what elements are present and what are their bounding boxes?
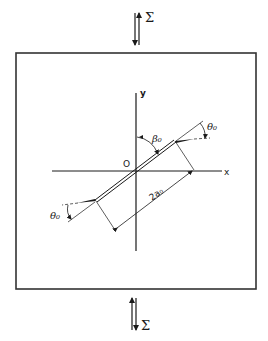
theta-arc-lower [67,205,71,219]
diagram-canvas: Σ x y O θ₀ θ₀ β₀ [0,0,268,341]
x-axis-label: x [224,167,230,177]
kink-direction-line-lower [62,203,78,205]
beta-label: β₀ [151,133,162,144]
crack-extension-line-upper [176,121,203,141]
lower-kink [77,199,96,203]
beta-angle: β₀ [137,133,162,154]
top-load-arrows: Σ [135,10,154,45]
y-axis-label: y [140,88,146,98]
kink-direction-line-upper [194,138,210,139]
theta-label-upper: θ₀ [207,121,217,132]
extension-line-upper [175,141,194,170]
top-load-label: Σ [145,10,154,25]
beta-arc-start-arrow-icon [139,135,143,139]
theta-arc-upper [200,123,205,138]
crack-extension-line-lower [68,202,95,222]
upper-kink-angle: θ₀ [176,121,217,141]
axes: x y O [52,88,230,251]
lower-kink-angle: θ₀ [50,202,95,222]
extension-line-lower [96,201,115,230]
crack-length-label: 2a₀ [147,185,165,202]
theta-label-lower: θ₀ [50,210,60,221]
bottom-load-arrows: Σ [132,298,150,333]
bottom-load-label: Σ [141,318,150,333]
origin-label: O [123,159,130,169]
crack-length-dimension: 2a₀ [96,141,194,230]
